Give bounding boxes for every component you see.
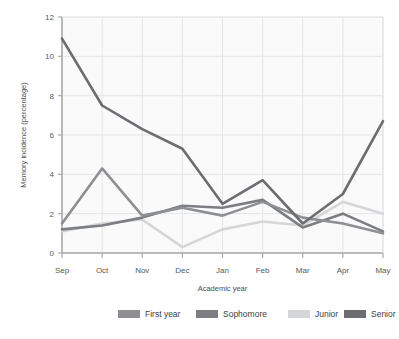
y-axis-tick-label: 0 bbox=[50, 249, 55, 258]
legend-swatch bbox=[196, 310, 218, 318]
legend-item-first-year[interactable]: First year bbox=[118, 309, 181, 319]
x-axis-tick-label: Nov bbox=[135, 266, 149, 275]
legend-item-senior[interactable]: Senior bbox=[344, 309, 396, 319]
x-axis-tick-label: Feb bbox=[256, 266, 270, 275]
x-axis-tick-label: Oct bbox=[96, 266, 109, 275]
legend-swatch bbox=[288, 310, 310, 318]
x-axis-tick-label: Jan bbox=[216, 266, 229, 275]
legend-label: Junior bbox=[315, 309, 338, 319]
y-axis-tick-label: 12 bbox=[45, 13, 54, 22]
legend-item-junior[interactable]: Junior bbox=[288, 309, 338, 319]
y-axis-tick-label: 10 bbox=[45, 52, 54, 61]
x-axis-tick-label: Mar bbox=[296, 266, 310, 275]
legend-label: First year bbox=[145, 309, 181, 319]
y-axis-tick-label: 6 bbox=[50, 131, 55, 140]
x-axis-title: Academic year bbox=[198, 284, 248, 293]
chart-canvas: 024681012SepOctNovDecJanFebMarAprMayAcad… bbox=[0, 0, 399, 339]
line-chart: 024681012SepOctNovDecJanFebMarAprMayAcad… bbox=[0, 0, 399, 339]
x-axis-tick-label: Dec bbox=[175, 266, 189, 275]
x-axis-tick-label: May bbox=[375, 266, 390, 275]
y-axis-title: Memory incidence (percentage) bbox=[19, 82, 28, 188]
legend-swatch bbox=[118, 310, 140, 318]
y-axis-tick-label: 8 bbox=[50, 92, 55, 101]
x-axis-tick-label: Apr bbox=[337, 266, 350, 275]
y-axis-tick-label: 2 bbox=[50, 210, 55, 219]
legend-swatch bbox=[344, 310, 366, 318]
legend-item-sophomore[interactable]: Sophomore bbox=[196, 309, 267, 319]
y-axis-tick-label: 4 bbox=[50, 170, 55, 179]
x-axis-tick-label: Sep bbox=[55, 266, 70, 275]
legend-label: Sophomore bbox=[223, 309, 267, 319]
legend-label: Senior bbox=[371, 309, 396, 319]
